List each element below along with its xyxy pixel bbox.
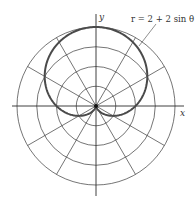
grid-ray-150 bbox=[28, 67, 96, 107]
grid-ray-330 bbox=[96, 106, 164, 146]
origin-dot bbox=[94, 104, 98, 108]
x-axis-label: x bbox=[180, 108, 185, 118]
equation-label: r = 2 + 2 sin θ bbox=[131, 14, 194, 24]
grid-ray-120 bbox=[57, 38, 97, 106]
grid-ray-60 bbox=[96, 38, 136, 106]
grid-ray-210 bbox=[28, 106, 96, 146]
polar-plot: y x r = 2 + 2 sin θ bbox=[0, 0, 196, 209]
equation-leader-line bbox=[139, 24, 156, 46]
y-axis-label: y bbox=[98, 12, 105, 22]
grid-ray-30 bbox=[96, 67, 164, 107]
